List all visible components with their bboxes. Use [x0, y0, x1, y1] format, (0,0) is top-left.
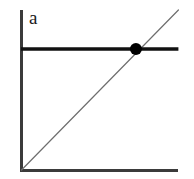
figure-panel-a: a [0, 0, 194, 179]
panel-label: a [29, 8, 37, 28]
intersection-marker-dot [130, 43, 142, 55]
